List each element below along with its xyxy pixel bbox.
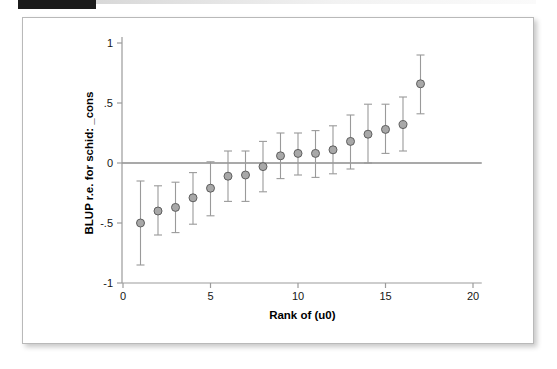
- redaction-bar: [18, 0, 96, 9]
- figure-card: [22, 17, 534, 344]
- header-rule: [96, 0, 536, 4]
